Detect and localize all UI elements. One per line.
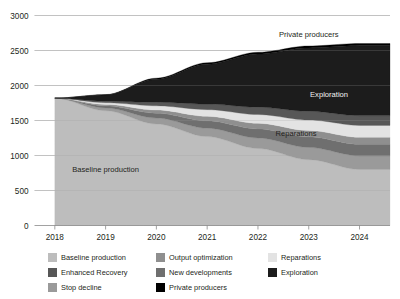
x-axis-tick-label: 2023 [300, 233, 319, 242]
legend-label: Enhanced Recovery [61, 268, 128, 277]
x-axis-tick-label: 2022 [249, 233, 268, 242]
legend-item[interactable]: Enhanced Recovery [48, 265, 156, 280]
legend-label: New developments [169, 268, 232, 277]
legend-swatch-icon [268, 253, 277, 262]
chart-legend: Baseline productionOutput optimizationRe… [48, 250, 393, 295]
legend-item[interactable]: Reparations [268, 250, 393, 265]
legend-label: Stop decline [61, 283, 102, 292]
area-annotation-label: Exploration [310, 90, 348, 99]
stacked-area-chart: 0500100015002000250030002018201920202021… [0, 0, 400, 299]
legend-item[interactable]: Baseline production [48, 250, 156, 265]
legend-label: Reparations [281, 253, 321, 262]
legend-item[interactable]: Exploration [268, 265, 393, 280]
y-axis-tick-label: 2500 [10, 47, 29, 56]
y-axis-tick-label: 500 [15, 187, 29, 196]
legend-swatch-icon [48, 283, 57, 292]
legend-label: Baseline production [61, 253, 126, 262]
y-axis-tick-label: 1500 [10, 117, 29, 126]
legend-item[interactable]: Private producers [156, 280, 268, 295]
y-axis-tick-label: 3000 [10, 12, 29, 21]
y-axis-tick-label: 0 [24, 222, 29, 231]
legend-item[interactable]: New developments [156, 265, 268, 280]
legend-item[interactable]: Output optimization [156, 250, 268, 265]
legend-label: Private producers [169, 283, 227, 292]
legend-swatch-icon [48, 268, 57, 277]
x-axis-tick-label: 2019 [96, 233, 115, 242]
legend-item[interactable]: Stop decline [48, 280, 156, 295]
area-annotation-label: Private producers [279, 30, 339, 39]
legend-swatch-icon [156, 268, 165, 277]
legend-swatch-icon [156, 253, 165, 262]
legend-swatch-icon [268, 268, 277, 277]
area-annotation-label: Reparations [276, 129, 317, 138]
x-axis-tick-label: 2024 [350, 233, 369, 242]
legend-label: Output optimization [169, 253, 233, 262]
legend-label: Exploration [281, 268, 318, 277]
x-axis-tick-label: 2021 [198, 233, 217, 242]
x-axis-tick-label: 2020 [147, 233, 166, 242]
legend-swatch-icon [156, 283, 165, 292]
y-axis-tick-label: 1000 [10, 152, 29, 161]
legend-swatch-icon [48, 253, 57, 262]
y-axis-tick-label: 2000 [10, 82, 29, 91]
area-annotation-label: Baseline production [72, 165, 139, 174]
x-axis-tick-label: 2018 [46, 233, 65, 242]
